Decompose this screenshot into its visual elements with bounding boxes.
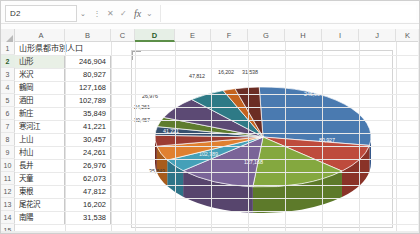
- formula-bar: D2 ⌄ ⋮ ✕ ✓ fx ⌄: [0, 4, 420, 24]
- pie-chart-object[interactable]: 246,90480,927127,168102,78935,84941,2213…: [131, 50, 393, 228]
- grid-line-vertical: [111, 42, 112, 232]
- insert-function-icon[interactable]: fx: [130, 8, 143, 19]
- row-header-2[interactable]: 2: [0, 55, 15, 68]
- cell-city-name[interactable]: 長井: [17, 159, 63, 172]
- grid-line-horizontal: [15, 133, 420, 134]
- grid-line-vertical: [285, 42, 286, 232]
- column-header-bar: ABCDEFGHIJK: [0, 29, 420, 42]
- cell-city-name[interactable]: 米沢: [17, 68, 63, 81]
- spreadsheet-application: D2 ⌄ ⋮ ✕ ✓ fx ⌄ ABCDEFGHIJK 123456789101…: [0, 0, 420, 234]
- grid-line-horizontal: [15, 172, 420, 173]
- grid-line-vertical: [211, 42, 212, 232]
- column-header-h[interactable]: H: [285, 29, 322, 42]
- sheet-grid[interactable]: 山形県都市別人口 山形246,904米沢80,927鶴岡127,168酒田102…: [15, 42, 420, 232]
- cell-city-name[interactable]: 山形: [17, 55, 63, 68]
- cell-population-value[interactable]: 102,789: [65, 94, 109, 107]
- pie-data-label: 47,812: [189, 73, 205, 79]
- row-header-11[interactable]: 11: [0, 172, 15, 185]
- cell-city-name[interactable]: 酒田: [17, 94, 63, 107]
- cell-population-value[interactable]: 47,812: [65, 185, 109, 198]
- grid-line-vertical: [248, 42, 249, 232]
- grid-line-horizontal: [15, 185, 420, 186]
- grid-line-horizontal: [15, 81, 420, 82]
- column-header-a[interactable]: A: [18, 29, 65, 42]
- grid-line-horizontal: [15, 68, 420, 69]
- cell-population-value[interactable]: 246,904: [65, 55, 109, 68]
- grid-line-horizontal: [15, 198, 420, 199]
- formula-bar-chevron-down-icon[interactable]: ⌄: [143, 10, 156, 18]
- row-header-bar: 123456789101112131415: [0, 42, 15, 232]
- column-header-f[interactable]: F: [211, 29, 248, 42]
- row-header-9[interactable]: 9: [0, 146, 15, 159]
- row-header-3[interactable]: 3: [0, 68, 15, 81]
- cell-population-value[interactable]: 62,073: [65, 172, 109, 185]
- pie-data-label: 16,202: [218, 69, 234, 75]
- cell-city-name[interactable]: 東根: [17, 185, 63, 198]
- cell-population-value[interactable]: 31,538: [65, 211, 109, 224]
- row-header-7[interactable]: 7: [0, 120, 15, 133]
- row-header-10[interactable]: 10: [0, 159, 15, 172]
- cell-a1-title[interactable]: 山形県都市別人口: [17, 42, 137, 55]
- cell-population-value[interactable]: 24,261: [65, 146, 109, 159]
- cell-city-name[interactable]: 新庄: [17, 107, 63, 120]
- bottom-edge-filler: [0, 231, 420, 234]
- cell-city-name[interactable]: 尾花沢: [17, 198, 63, 211]
- row-header-6[interactable]: 6: [0, 107, 15, 120]
- grid-line-horizontal: [15, 94, 420, 95]
- column-header-j[interactable]: J: [359, 29, 396, 42]
- row-header-8[interactable]: 8: [0, 133, 15, 146]
- row-header-13[interactable]: 13: [0, 198, 15, 211]
- cell-population-value[interactable]: 26,976: [65, 159, 109, 172]
- grid-line-horizontal: [15, 120, 420, 121]
- cell-population-value[interactable]: 127,168: [65, 81, 109, 94]
- column-header-d[interactable]: D: [135, 29, 175, 42]
- cancel-icon[interactable]: ✕: [104, 10, 117, 18]
- grid-line-horizontal: [15, 159, 420, 160]
- column-header-i[interactable]: I: [322, 29, 359, 42]
- grid-line-horizontal: [15, 224, 420, 225]
- row-header-5[interactable]: 5: [0, 94, 15, 107]
- grid-line-horizontal: [15, 55, 420, 56]
- pie-chart-svg: [132, 51, 394, 229]
- grid-line-vertical: [359, 42, 360, 232]
- cell-population-value[interactable]: 35,849: [65, 107, 109, 120]
- grid-line-horizontal: [15, 211, 420, 212]
- grid-line-vertical: [322, 42, 323, 232]
- pie-data-label: 102,789: [199, 151, 218, 157]
- cell-population-value[interactable]: 30,457: [65, 133, 109, 146]
- column-header-g[interactable]: G: [248, 29, 285, 42]
- pie-data-label: 31,538: [242, 69, 258, 75]
- select-all-corner-button[interactable]: [0, 29, 15, 42]
- column-header-e[interactable]: E: [175, 29, 211, 42]
- name-box[interactable]: D2: [5, 5, 77, 22]
- formula-input[interactable]: [160, 5, 416, 22]
- column-header-k[interactable]: K: [396, 29, 420, 42]
- cell-city-name[interactable]: 南陽: [17, 211, 63, 224]
- row-header-14[interactable]: 14: [0, 211, 15, 224]
- cell-city-name[interactable]: 鶴岡: [17, 81, 63, 94]
- cell-population-value[interactable]: 41,221: [65, 120, 109, 133]
- grid-line-horizontal: [15, 146, 420, 147]
- pie-chart-plot-area: 246,90480,927127,168102,78935,84941,2213…: [132, 51, 394, 229]
- pie-data-label: 35,849: [149, 168, 165, 174]
- cell-city-name[interactable]: 村山: [17, 146, 63, 159]
- grid-line-vertical: [175, 42, 176, 232]
- confirm-icon[interactable]: ✓: [117, 10, 130, 18]
- name-box-chevron-down-icon[interactable]: ⌄: [77, 10, 90, 18]
- grid-line-vertical: [396, 42, 397, 232]
- row-header-12[interactable]: 12: [0, 185, 15, 198]
- cell-population-value[interactable]: 80,927: [65, 68, 109, 81]
- row-header-1[interactable]: 1: [0, 42, 15, 55]
- grid-line-vertical: [135, 42, 136, 232]
- cell-city-name[interactable]: 上山: [17, 133, 63, 146]
- column-header-c[interactable]: C: [111, 29, 135, 42]
- cell-city-name[interactable]: 天童: [17, 172, 63, 185]
- row-header-4[interactable]: 4: [0, 81, 15, 94]
- more-options-icon[interactable]: ⋮: [90, 10, 104, 18]
- grid-line-vertical: [65, 42, 66, 232]
- cell-city-name[interactable]: 寒河江: [17, 120, 63, 133]
- grid-line-horizontal: [15, 107, 420, 108]
- cell-population-value[interactable]: 16,202: [65, 198, 109, 211]
- column-header-b[interactable]: B: [65, 29, 111, 42]
